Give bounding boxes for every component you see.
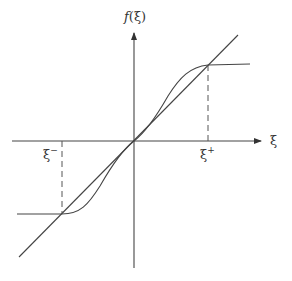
xi-minus-sup: − <box>50 145 58 155</box>
x-axis-label: ξ <box>270 134 277 147</box>
y-axis-label: f(ξ) <box>124 10 146 23</box>
y-axis-label-arg: (ξ) <box>129 9 146 24</box>
diagram-canvas <box>0 0 292 281</box>
xi-plus-label: ξ+ <box>200 146 215 161</box>
xi-minus-label: ξ− <box>43 146 58 161</box>
xi-plus-sup: + <box>207 145 215 155</box>
